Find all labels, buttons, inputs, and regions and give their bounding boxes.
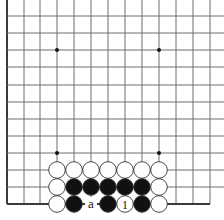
white-stone[interactable] bbox=[66, 162, 83, 179]
stones-layer: 1 bbox=[49, 162, 168, 213]
star-point-icon bbox=[157, 48, 161, 52]
white-stone[interactable] bbox=[49, 179, 66, 196]
black-stone[interactable] bbox=[83, 179, 100, 196]
white-stone[interactable] bbox=[83, 162, 100, 179]
white-stone[interactable] bbox=[151, 196, 168, 213]
star-point-icon bbox=[55, 48, 59, 52]
black-stone[interactable] bbox=[134, 179, 151, 196]
black-stone[interactable] bbox=[117, 179, 134, 196]
white-stone[interactable] bbox=[151, 179, 168, 196]
white-stone[interactable] bbox=[151, 162, 168, 179]
star-point-icon bbox=[157, 151, 161, 155]
white-stone[interactable] bbox=[49, 162, 66, 179]
black-stone[interactable] bbox=[66, 196, 83, 213]
white-stone[interactable] bbox=[100, 162, 117, 179]
black-stone[interactable] bbox=[100, 179, 117, 196]
move-number-label: 1 bbox=[122, 198, 128, 212]
point-labels: a bbox=[85, 196, 97, 211]
point-label-a[interactable]: a bbox=[88, 196, 94, 211]
black-stone[interactable] bbox=[66, 179, 83, 196]
black-stone[interactable] bbox=[100, 196, 117, 213]
white-stone[interactable] bbox=[134, 162, 151, 179]
black-stone[interactable] bbox=[134, 196, 151, 213]
go-board[interactable]: 1 a bbox=[0, 0, 224, 220]
star-point-icon bbox=[55, 151, 59, 155]
white-stone[interactable] bbox=[117, 162, 134, 179]
white-stone[interactable] bbox=[49, 196, 66, 213]
